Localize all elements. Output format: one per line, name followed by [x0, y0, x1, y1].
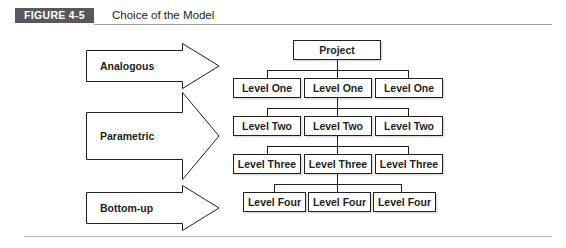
tree-node-level-three-1: Level Three	[233, 154, 301, 174]
connector-level-one-drop-2	[337, 70, 338, 78]
connector-level-two-drop-2	[337, 108, 338, 116]
connector-level-one-drop-3	[408, 70, 409, 78]
tree-node-level-two-2: Level Two	[304, 116, 372, 136]
tree-node-level-four-3: Level Four	[373, 192, 436, 212]
connector-level-three-drop-2	[337, 146, 338, 154]
connector-level-one-drop-1	[267, 70, 268, 78]
tree-node-level-two-1: Level Two	[233, 116, 301, 136]
connector-level-four-drop-1	[274, 184, 275, 192]
connector-level-four-drop-3	[401, 184, 402, 192]
tree-node-level-two-3: Level Two	[375, 116, 443, 136]
figure-bottom-divider	[24, 236, 552, 237]
tree-node-level-one-1: Level One	[233, 78, 301, 98]
wbs-tree: Project Level One Level One Level One Le…	[0, 0, 566, 248]
figure-container: FIGURE 4-5 Choice of the Model Analogous…	[0, 0, 566, 248]
connector-level-three-stem	[337, 136, 338, 146]
connector-level-four-stem	[337, 174, 338, 184]
tree-node-level-three-3: Level Three	[375, 154, 443, 174]
tree-node-level-three-2: Level Three	[304, 154, 372, 174]
tree-node-level-one-2: Level One	[304, 78, 372, 98]
tree-node-level-four-1: Level Four	[243, 192, 306, 212]
connector-level-three-drop-1	[267, 146, 268, 154]
tree-node-level-one-3: Level One	[375, 78, 443, 98]
connector-level-three-drop-3	[408, 146, 409, 154]
connector-level-two-drop-3	[408, 108, 409, 116]
connector-level-four-drop-2	[337, 184, 338, 192]
connector-level-two-drop-1	[267, 108, 268, 116]
connector-level-two-stem	[337, 98, 338, 108]
tree-node-project: Project	[293, 40, 381, 60]
tree-node-level-four-2: Level Four	[308, 192, 371, 212]
connector-root-stem	[337, 60, 338, 70]
